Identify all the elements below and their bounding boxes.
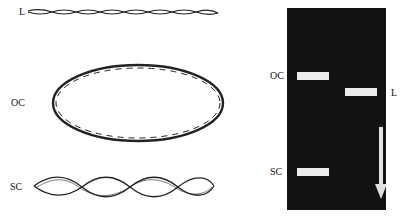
gel-label-l: L xyxy=(391,88,397,98)
gel-label-oc: OC xyxy=(270,71,284,81)
migration-arrow-icon xyxy=(0,0,401,219)
gel-label-sc: SC xyxy=(270,167,282,177)
